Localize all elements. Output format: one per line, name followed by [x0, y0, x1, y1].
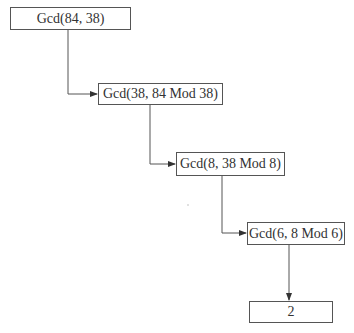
edge-n2-n3: [150, 104, 175, 164]
artifact-dot: [187, 204, 189, 206]
node-gcd-38-84-mod-38: Gcd(38, 84 Mod 38): [98, 83, 223, 105]
node-gcd-6-8-mod-6: Gcd(6, 8 Mod 6): [247, 222, 345, 245]
node-result-2: 2: [249, 301, 333, 323]
gcd-recursion-diagram: Gcd(84, 38) Gcd(38, 84 Mod 38) Gcd(8, 38…: [0, 0, 354, 333]
node-gcd-84-38: Gcd(84, 38): [10, 7, 131, 30]
node-gcd-8-38-mod-8: Gcd(8, 38 Mod 8): [176, 152, 285, 176]
edge-n3-n4: [222, 175, 246, 233]
edge-n1-n2: [68, 29, 97, 94]
